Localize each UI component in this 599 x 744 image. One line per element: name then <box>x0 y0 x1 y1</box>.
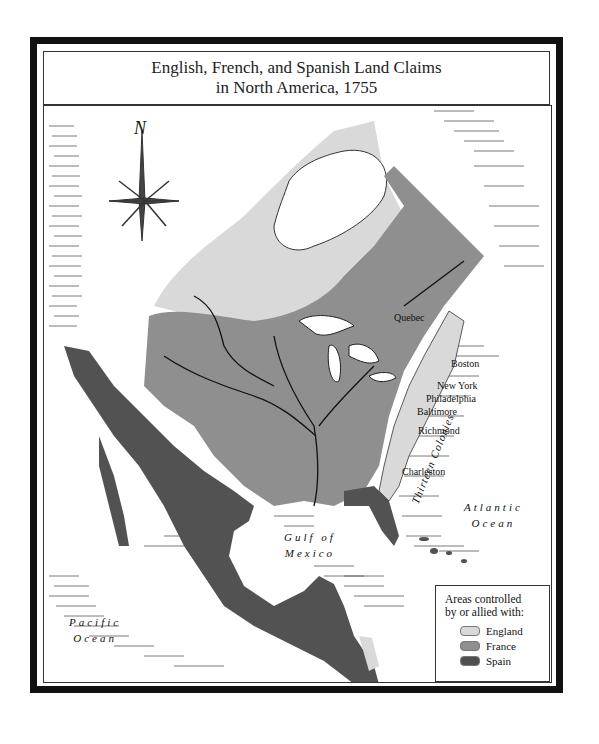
map-legend: Areas controlled by or allied with: Engl… <box>435 585 550 682</box>
france-swatch-icon <box>460 641 480 651</box>
compass-rose-icon <box>109 131 179 241</box>
map-title-line2: in North America, 1755 <box>44 78 549 98</box>
map-title-box: English, French, and Spanish Land Claims… <box>43 51 550 105</box>
city-new-york: New York <box>437 380 478 391</box>
legend-item-france: France <box>460 638 549 653</box>
pacific-ocean-label: Pacific Ocean <box>69 614 121 646</box>
caribbean-islands <box>419 537 467 563</box>
city-philadelphia: Philadelphia <box>426 393 476 404</box>
legend-item-england: England <box>460 623 549 638</box>
spain-swatch-icon <box>460 656 480 666</box>
map-title-line1: English, French, and Spanish Land Claims <box>44 58 549 78</box>
legend-heading: Areas controlled by or allied with: <box>445 593 549 619</box>
gulf-of-mexico-label: Gulf of Mexico <box>284 529 336 561</box>
england-swatch-icon <box>460 626 480 636</box>
compass-north-label: N <box>134 118 146 139</box>
city-quebec: Quebec <box>394 312 425 323</box>
city-boston: Boston <box>451 358 479 369</box>
legend-item-spain: Spain <box>460 653 549 668</box>
atlantic-ocean-label: Atlantic Ocean <box>464 499 523 531</box>
